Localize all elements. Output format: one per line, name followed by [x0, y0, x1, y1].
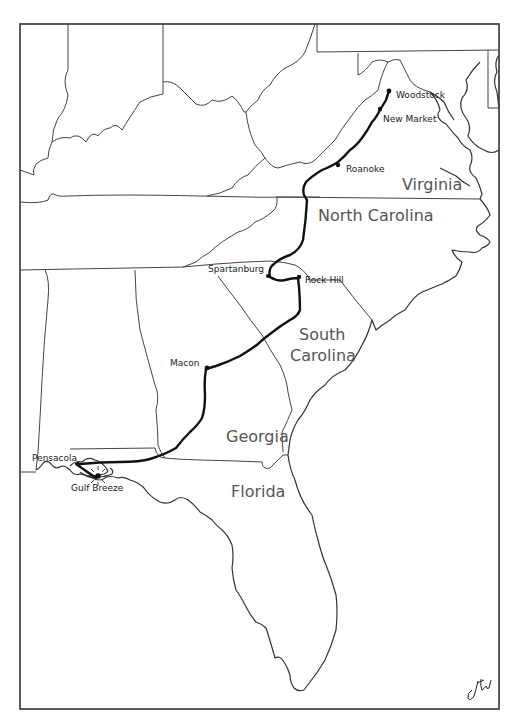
state-label-south-carolina-2: Carolina — [290, 346, 356, 365]
tennessee-southern-border — [20, 264, 216, 270]
artist-signature — [468, 679, 491, 700]
map-frame — [20, 24, 499, 709]
ohio-river — [52, 82, 246, 142]
macon-label: Macon — [170, 358, 199, 368]
route-map: Woodstock New Market Roanoke Spartanburg… — [0, 0, 506, 719]
state-label-virginia: Virginia — [402, 175, 462, 194]
state-label-north-carolina: North Carolina — [318, 206, 434, 225]
spartanburg-dot — [266, 274, 270, 278]
spartanburg-label: Spartanburg — [208, 264, 264, 274]
ohio-pa-border — [246, 24, 315, 112]
gulf-breeze-label: Gulf Breeze — [71, 483, 124, 493]
new-market-dot — [378, 107, 382, 111]
city-macon: Macon — [170, 358, 209, 370]
georgia-florida-border — [165, 455, 288, 468]
state-label-florida: Florida — [231, 482, 285, 501]
city-woodstock: Woodstock — [387, 89, 446, 100]
roanoke-label: Roanoke — [346, 164, 385, 174]
alabama-florida-border — [70, 448, 165, 458]
state-label-georgia: Georgia — [226, 427, 289, 446]
city-new-market: New Market — [378, 107, 437, 124]
pensacola-label: Pensacola — [32, 453, 77, 463]
state-label-south-carolina-1: South — [299, 325, 346, 344]
tennessee-nc-border — [183, 197, 277, 267]
illinois-indiana-border — [20, 24, 68, 175]
woodstock-dot — [387, 89, 392, 94]
rock-hill-dot — [297, 275, 301, 279]
alabama-georgia-border — [135, 270, 165, 458]
roanoke-dot — [336, 163, 340, 167]
kentucky-virginia-border — [207, 158, 265, 196]
macon-dot — [205, 366, 210, 371]
woodstock-label: Woodstock — [396, 90, 446, 100]
city-roanoke: Roanoke — [336, 163, 385, 174]
city-rock-hill: Rock Hill — [297, 275, 344, 285]
mississippi-alabama-border — [36, 270, 49, 470]
kentucky-tennessee-border — [20, 194, 320, 203]
florida-atlantic-coast — [288, 455, 337, 690]
virginia-eastern-shore — [461, 62, 499, 153]
rock-hill-label: Rock Hill — [305, 275, 344, 285]
sc-ga-border — [218, 276, 292, 452]
city-spartanburg: Spartanburg — [208, 264, 270, 278]
new-market-label: New Market — [383, 114, 437, 124]
pennsylvania-border — [317, 24, 499, 52]
